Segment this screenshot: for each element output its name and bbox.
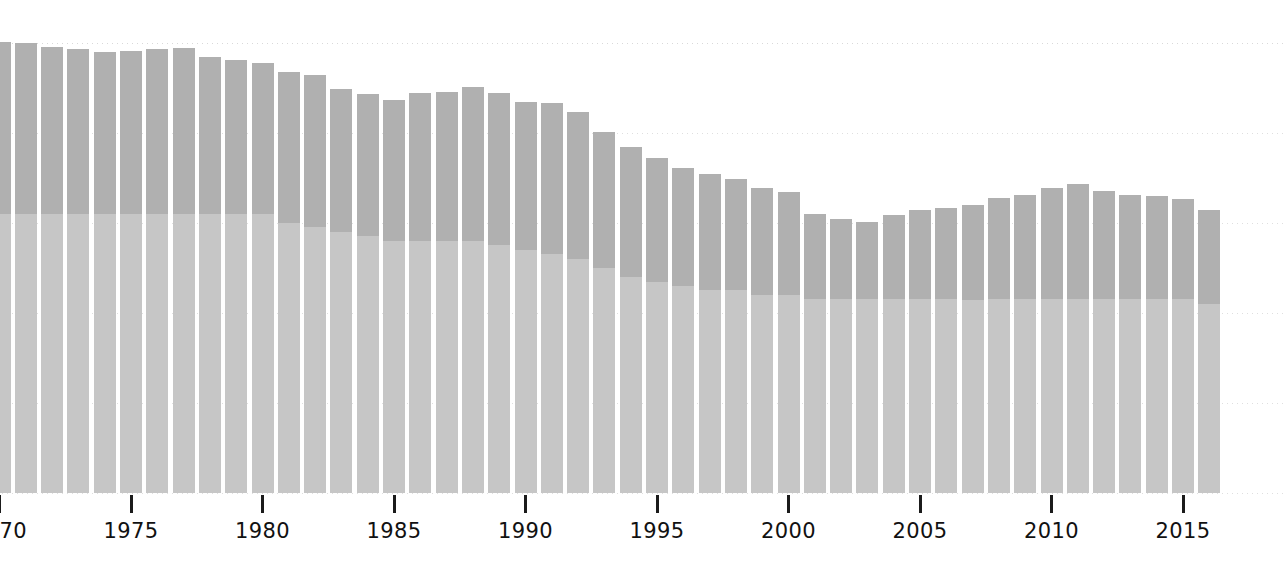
bar-segment-lower <box>436 241 458 493</box>
bar-1978 <box>199 57 221 494</box>
bar-1976 <box>146 49 168 493</box>
bar-segment-upper <box>409 93 431 241</box>
x-tick-label-2010: 2010 <box>1024 519 1079 543</box>
bar-segment-lower <box>620 277 642 493</box>
bar-segment-lower <box>173 214 195 493</box>
bar-1979 <box>225 60 247 493</box>
x-tick-2010 <box>1050 495 1053 513</box>
bar-segment-upper <box>1067 184 1089 299</box>
x-tick-label-2005: 2005 <box>892 519 947 543</box>
bar-segment-lower <box>1014 299 1036 493</box>
bar-2009 <box>1014 195 1036 493</box>
x-tick-label-1970: 1970 <box>0 519 27 543</box>
bar-segment-lower <box>935 299 957 493</box>
bar-segment-upper <box>699 174 721 290</box>
bar-1992 <box>567 112 589 493</box>
bar-1980 <box>252 63 274 493</box>
bar-segment-lower <box>699 290 721 493</box>
x-tick-2015 <box>1182 495 1185 513</box>
x-tick-1980 <box>261 495 264 513</box>
bar-2008 <box>988 198 1010 493</box>
bar-segment-upper <box>67 49 89 214</box>
bar-segment-lower <box>146 214 168 493</box>
bar-segment-upper <box>278 72 300 223</box>
bar-1975 <box>120 51 142 493</box>
bar-2006 <box>935 208 957 493</box>
bar-1984 <box>357 94 379 493</box>
bar-segment-lower <box>383 241 405 493</box>
x-tick-label-2015: 2015 <box>1155 519 1210 543</box>
bar-segment-lower <box>1067 299 1089 493</box>
bar-segment-lower <box>330 232 352 493</box>
bar-segment-upper <box>330 89 352 232</box>
bar-segment-upper <box>1198 210 1220 304</box>
bar-2003 <box>856 222 878 493</box>
bar-segment-lower <box>67 214 89 493</box>
bar-segment-lower <box>1041 299 1063 493</box>
bar-segment-lower <box>725 290 747 493</box>
bar-segment-upper <box>252 63 274 214</box>
bar-segment-upper <box>1041 188 1063 300</box>
bar-segment-upper <box>567 112 589 259</box>
bar-segment-upper <box>672 168 694 286</box>
bar-segment-upper <box>856 222 878 300</box>
x-tick-label-1990: 1990 <box>498 519 553 543</box>
bar-segment-lower <box>409 241 431 493</box>
x-tick-label-1975: 1975 <box>103 519 158 543</box>
bar-segment-lower <box>304 227 326 493</box>
bar-segment-lower <box>15 214 37 493</box>
bar-1973 <box>67 49 89 493</box>
bar-segment-lower <box>856 299 878 493</box>
bar-segment-upper <box>830 219 852 300</box>
bar-segment-lower <box>909 299 931 493</box>
x-tick-2000 <box>787 495 790 513</box>
bar-segment-lower <box>199 214 221 493</box>
bar-2011 <box>1067 184 1089 493</box>
bar-segment-upper <box>94 52 116 214</box>
bar-segment-lower <box>1198 304 1220 493</box>
bar-segment-lower <box>41 214 63 493</box>
bar-segment-upper <box>515 102 537 250</box>
bar-segment-lower <box>830 299 852 493</box>
bar-1999 <box>751 188 773 493</box>
bar-segment-upper <box>1014 195 1036 300</box>
bar-segment-upper <box>778 192 800 295</box>
bar-segment-upper <box>962 205 984 300</box>
bar-segment-upper <box>988 198 1010 300</box>
bar-segment-upper <box>593 132 615 268</box>
bar-segment-lower <box>804 299 826 493</box>
bar-segment-upper <box>804 214 826 299</box>
bar-segment-upper <box>357 94 379 236</box>
bar-segment-lower <box>488 245 510 493</box>
bar-1986 <box>409 93 431 493</box>
bar-segment-upper <box>225 60 247 214</box>
bar-segment-lower <box>94 214 116 493</box>
x-tick-1975 <box>130 495 133 513</box>
bar-segment-upper <box>383 100 405 241</box>
bar-segment-upper <box>935 208 957 299</box>
bar-segment-upper <box>41 47 63 214</box>
bar-segment-lower <box>541 254 563 493</box>
bar-1985 <box>383 100 405 493</box>
bar-segment-lower <box>0 214 11 493</box>
bar-segment-upper <box>199 57 221 215</box>
chart-canvas: 1970197519801985199019952000200520102015… <box>0 0 1283 588</box>
bar-segment-lower <box>252 214 274 493</box>
bar-1983 <box>330 89 352 493</box>
bar-1977 <box>173 48 195 494</box>
bar-2007 <box>962 205 984 493</box>
bar-segment-lower <box>515 250 537 493</box>
bar-2010 <box>1041 188 1063 493</box>
bar-segment-upper <box>620 147 642 278</box>
bar-1974 <box>94 52 116 493</box>
bar-1993 <box>593 132 615 493</box>
bar-segment-lower <box>462 241 484 493</box>
bar-1991 <box>541 103 563 493</box>
bar-2015 <box>1172 199 1194 493</box>
bar-segment-upper <box>646 158 668 282</box>
bar-1972 <box>41 47 63 493</box>
bar-segment-upper <box>1172 199 1194 300</box>
bar-segment-lower <box>120 214 142 493</box>
bar-segment-upper <box>1146 196 1168 300</box>
bar-segment-lower <box>1146 299 1168 493</box>
